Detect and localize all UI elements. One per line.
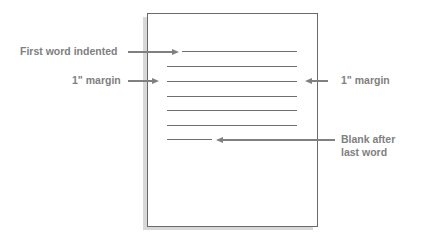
- arrow-first-word: [128, 51, 173, 53]
- text-line-6: [167, 125, 297, 126]
- label-blank-after: Blank after: [341, 133, 395, 146]
- text-line-1-indented: [182, 51, 297, 52]
- arrowhead-right-icon: [152, 78, 159, 84]
- text-line-4: [167, 96, 297, 97]
- arrow-right-margin: [311, 80, 328, 82]
- text-line-2: [167, 66, 297, 67]
- text-line-5: [167, 110, 297, 111]
- document-page: [147, 13, 318, 227]
- text-line-3: [167, 81, 297, 82]
- label-left-margin: 1" margin: [72, 74, 121, 87]
- arrow-left-margin: [128, 80, 153, 82]
- arrowhead-right-icon: [172, 49, 179, 55]
- arrow-blank-after: [222, 139, 335, 141]
- text-line-7-last: [167, 139, 212, 140]
- label-first-word-indented: First word indented: [20, 45, 117, 58]
- label-right-margin: 1" margin: [341, 74, 390, 87]
- label-last-word: last word: [341, 146, 387, 159]
